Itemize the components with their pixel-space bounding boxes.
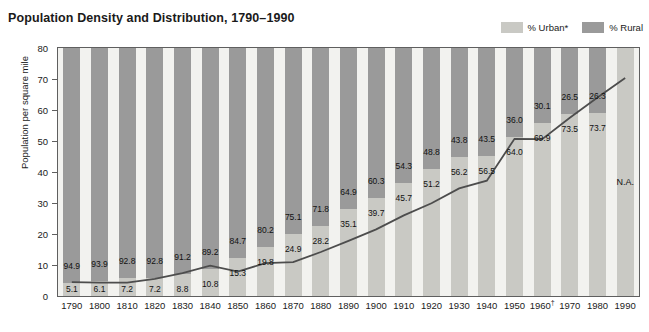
chart-header: Population Density and Distribution, 179… [0, 0, 649, 44]
value-label-rural: 80.2 [257, 225, 274, 235]
y-tick-label: 60 [37, 105, 48, 116]
value-label-urban: 56.2 [451, 167, 468, 177]
value-label-rural: 94.9 [64, 261, 81, 271]
x-tick-label: 1840 [200, 300, 221, 311]
value-label-urban: 73.7 [589, 123, 606, 133]
value-label-rural: 75.1 [285, 212, 302, 222]
plot-area: 94.95.193.96.192.87.292.87.291.28.889.21… [57, 47, 640, 297]
x-tick-label: 1810 [117, 300, 138, 311]
x-tick-label: 1820 [144, 300, 165, 311]
legend-swatch-rural [582, 22, 604, 33]
value-label-urban: 19.8 [257, 257, 274, 267]
value-label-urban: 24.9 [285, 244, 302, 254]
x-tick-label: 1990 [615, 300, 636, 311]
x-tick-label: 1890 [338, 300, 359, 311]
x-tick-label: 1800 [89, 300, 110, 311]
value-label-rural: 71.8 [313, 204, 330, 214]
x-tick-label: 1870 [283, 300, 304, 311]
value-label-urban: 56.5 [479, 166, 496, 176]
value-label-rural: 43.5 [479, 134, 496, 144]
value-label-rural: 54.3 [396, 161, 413, 171]
value-label-urban: 39.7 [368, 208, 385, 218]
x-tick-label: 1900 [366, 300, 387, 311]
value-label-rural: 84.7 [230, 236, 247, 246]
x-axis: 1790180018101820183018401850186018701880… [57, 299, 640, 317]
x-tick-label: 1860 [255, 300, 276, 311]
x-tick-label: 1940 [476, 300, 497, 311]
value-label-rural: 26.5 [562, 92, 579, 102]
value-label-urban: 8.8 [177, 284, 189, 294]
value-label-rural: 91.2 [174, 252, 191, 262]
value-label-urban: 6.1 [94, 284, 106, 294]
y-tick-label: 0 [43, 291, 48, 302]
x-tick-label: 1910 [393, 300, 414, 311]
value-label-urban: 35.1 [340, 219, 357, 229]
y-tick-label: 70 [37, 74, 48, 85]
legend-swatch-urban [501, 22, 523, 33]
value-label-urban: 73.5 [562, 124, 579, 134]
value-label-rural: 92.8 [119, 256, 136, 266]
y-axis: Population per square mile 8070605040302… [0, 47, 57, 297]
value-label-rural: 48.8 [423, 147, 440, 157]
value-label-urban: 7.2 [121, 284, 133, 294]
value-label-rural: 36.0 [506, 115, 523, 125]
value-label-rural: 92.8 [147, 256, 164, 266]
legend-item-urban: % Urban* [501, 22, 569, 33]
y-tick-label: 10 [37, 260, 48, 271]
x-tick-label: 1850 [227, 300, 248, 311]
value-label-rural: 89.2 [202, 247, 219, 257]
value-label-rural: 60.3 [368, 176, 385, 186]
y-tick-label: 30 [37, 198, 48, 209]
y-axis-title: Population per square mile [19, 23, 30, 203]
x-tick-label: 1830 [172, 300, 193, 311]
y-tick-label: 50 [37, 136, 48, 147]
value-label-urban: 51.2 [423, 179, 440, 189]
value-label-urban: 10.8 [202, 279, 219, 289]
chart-legend: % Urban* % Rural [501, 22, 643, 33]
legend-label-rural: % Rural [609, 22, 643, 33]
x-tick-label: 1950 [504, 300, 525, 311]
legend-item-rural: % Rural [582, 22, 643, 33]
value-label-rural: 64.9 [340, 187, 357, 197]
y-tick-label: 80 [37, 43, 48, 54]
x-tick-label: 1970 [559, 300, 580, 311]
x-tick-label: 1980 [587, 300, 608, 311]
value-label-urban: 15.3 [230, 268, 247, 278]
x-tick-label: 1930 [449, 300, 470, 311]
legend-label-urban: % Urban* [528, 22, 569, 33]
y-tick-label: 20 [37, 229, 48, 240]
value-labels-layer: 94.95.193.96.192.87.292.87.291.28.889.21… [58, 48, 639, 296]
value-label-urban: 28.2 [313, 236, 330, 246]
value-label-urban: 64.0 [506, 147, 523, 157]
y-tick-label: 40 [37, 167, 48, 178]
value-label-rural: 26.3 [589, 91, 606, 101]
x-tick-label: 1790 [61, 300, 82, 311]
value-label-urban: 45.7 [396, 193, 413, 203]
x-tick-label: 1880 [310, 300, 331, 311]
value-label-rural: 43.8 [451, 135, 468, 145]
value-label-na: N.A. [616, 177, 634, 187]
x-tick-label: 1960† [530, 300, 555, 311]
value-label-urban: 5.1 [66, 284, 78, 294]
value-label-rural: 30.1 [534, 101, 551, 111]
page-title: Population Density and Distribution, 179… [8, 11, 295, 25]
value-label-urban: 69.9 [534, 133, 551, 143]
value-label-urban: 7.2 [149, 284, 161, 294]
x-tick-label: 1920 [421, 300, 442, 311]
value-label-rural: 93.9 [91, 259, 108, 269]
